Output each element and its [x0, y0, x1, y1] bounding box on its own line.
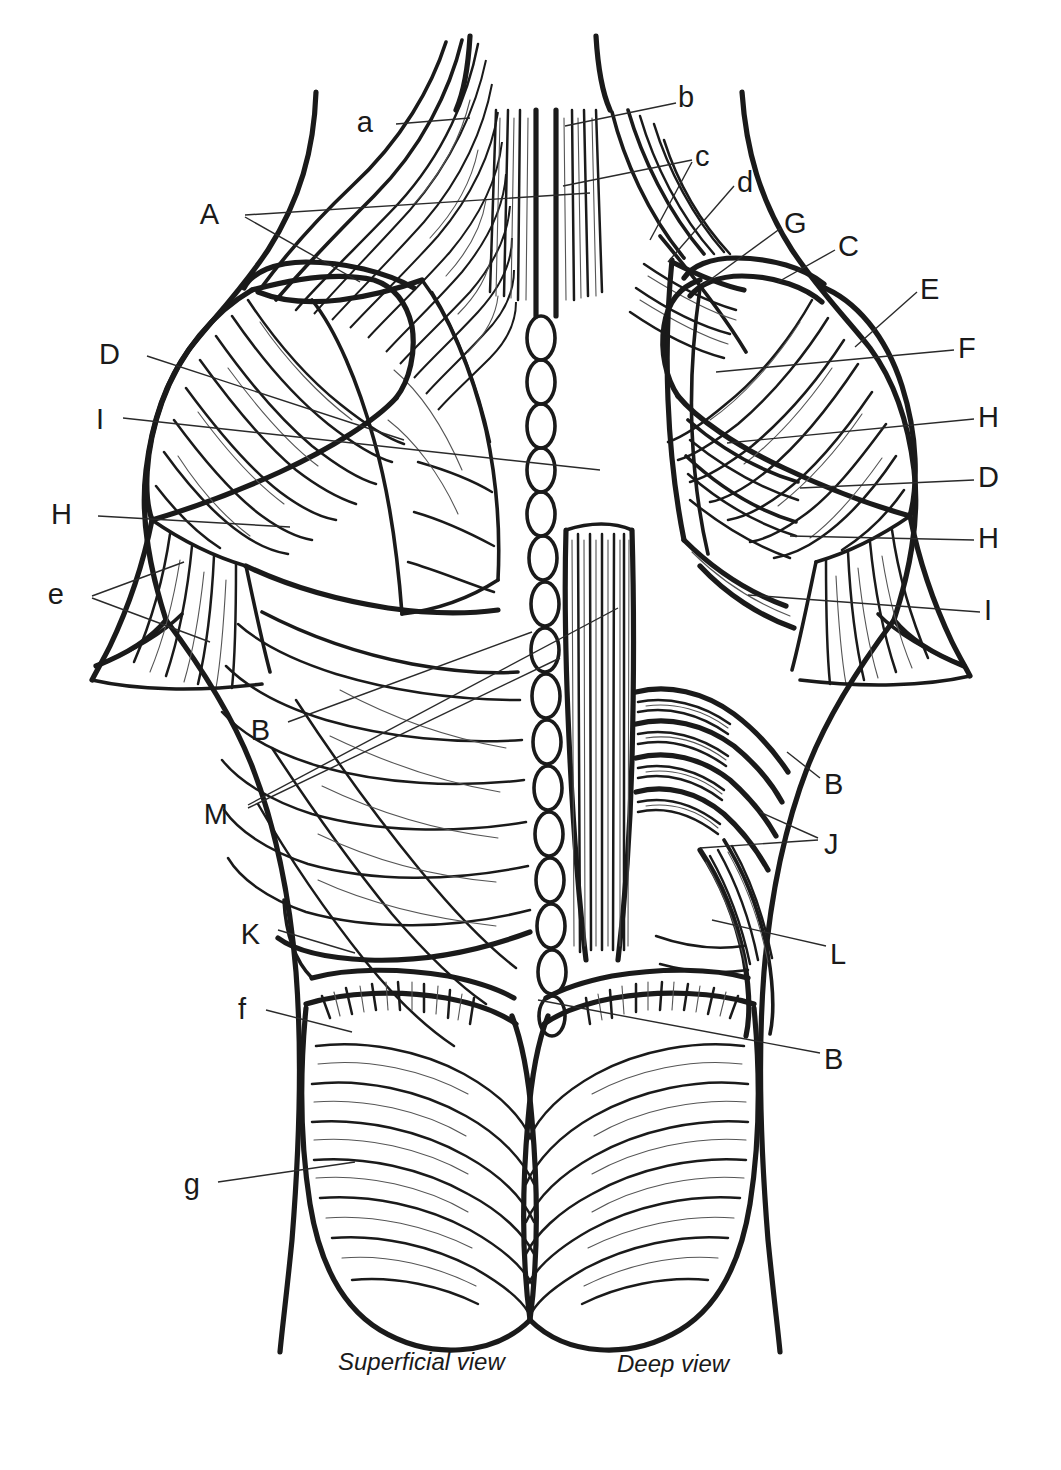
leader-line-b	[565, 103, 676, 126]
label-d: d	[737, 168, 753, 197]
label-g: g	[184, 1170, 200, 1199]
serratus-posterior	[636, 689, 788, 870]
label-I-left: I	[96, 405, 104, 434]
leader-line-J	[700, 840, 818, 848]
gluteal-region	[302, 970, 758, 1350]
caption-superficial: Superficial view	[338, 1348, 505, 1376]
label-f: f	[238, 995, 246, 1024]
leader-line-B	[538, 1000, 820, 1053]
label-A: A	[200, 200, 219, 229]
label-D-left: D	[99, 340, 120, 369]
label-H-right2: H	[978, 524, 999, 553]
label-J: J	[824, 830, 839, 859]
label-L: L	[830, 940, 846, 969]
label-B-right: B	[824, 770, 843, 799]
label-B-left: B	[251, 716, 270, 745]
label-I-right: I	[984, 596, 992, 625]
label-M: M	[204, 800, 228, 829]
label-a: a	[357, 108, 373, 137]
label-C: C	[838, 232, 859, 261]
label-c: c	[695, 142, 710, 171]
label-b: b	[678, 83, 694, 112]
leader-line-B	[288, 632, 532, 722]
label-F: F	[958, 334, 976, 363]
label-B-bottom: B	[824, 1045, 843, 1074]
anatomy-illustration: .o { fill:none; stroke:#1a1a1a; stroke-w…	[0, 0, 1061, 1470]
figure-canvas: .o { fill:none; stroke:#1a1a1a; stroke-w…	[0, 0, 1061, 1470]
label-K: K	[241, 920, 260, 949]
body-outline	[96, 36, 964, 1352]
leader-line-H	[98, 516, 290, 527]
caption-deep: Deep view	[617, 1350, 729, 1378]
label-G: G	[784, 209, 807, 238]
leader-line-M	[248, 608, 618, 805]
leader-line-g	[218, 1162, 355, 1182]
label-e: e	[48, 580, 64, 609]
label-H-left: H	[51, 500, 72, 529]
leader-line-M	[248, 658, 560, 808]
leader-line-D	[147, 356, 404, 440]
erector-spinae	[565, 524, 633, 960]
arm-left	[92, 520, 270, 689]
label-E: E	[920, 275, 939, 304]
trapezius-superficial	[258, 40, 516, 614]
label-H-right1: H	[978, 403, 999, 432]
label-D-right: D	[978, 463, 999, 492]
